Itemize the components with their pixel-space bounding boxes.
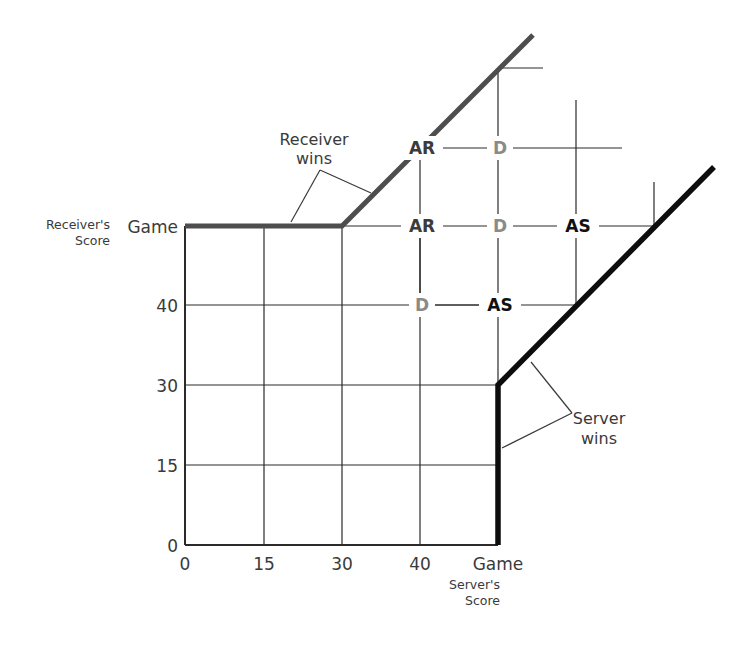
x-axis-title-line2: Score xyxy=(465,593,500,608)
receiver-callout-leader xyxy=(320,170,371,193)
y-tick-game: Game xyxy=(127,217,178,237)
receiver-wins-label-line1: Receiver xyxy=(279,130,349,149)
state-ar: AR xyxy=(409,216,435,236)
receiver-wins-boundary xyxy=(185,35,533,226)
y-tick-15: 15 xyxy=(156,456,178,476)
state-d: D xyxy=(415,295,429,315)
state-as: AS xyxy=(565,216,590,236)
y-axis-title-line1: Receiver's xyxy=(46,217,110,232)
server-wins-boundary xyxy=(498,167,714,545)
x-tick-40: 40 xyxy=(409,554,431,574)
tennis-scoring-diagram: ARDARDASDAS 0 15 30 40 Game 0 15 30 40 G… xyxy=(0,0,749,645)
deuce-states: ARDARDASDAS xyxy=(401,136,599,317)
y-tick-40: 40 xyxy=(156,296,178,316)
server-callout-leader xyxy=(531,362,572,413)
x-tick-game: Game xyxy=(473,554,524,574)
x-tick-0: 0 xyxy=(180,554,191,574)
state-ar: AR xyxy=(409,138,435,158)
server-callout-leader xyxy=(502,413,572,448)
x-tick-15: 15 xyxy=(253,554,275,574)
state-d: D xyxy=(493,216,507,236)
x-tick-30: 30 xyxy=(331,554,353,574)
state-d: D xyxy=(493,138,507,158)
state-as: AS xyxy=(487,295,512,315)
y-tick-30: 30 xyxy=(156,376,178,396)
x-axis-title-line1: Server's xyxy=(449,577,500,592)
y-axis-title-line2: Score xyxy=(75,233,110,248)
y-tick-0: 0 xyxy=(167,536,178,556)
receiver-callout-leader xyxy=(291,170,320,222)
server-wins-label-line1: Server xyxy=(573,409,626,428)
receiver-wins-label-line2: wins xyxy=(296,149,332,168)
server-wins-label-line2: wins xyxy=(581,429,617,448)
